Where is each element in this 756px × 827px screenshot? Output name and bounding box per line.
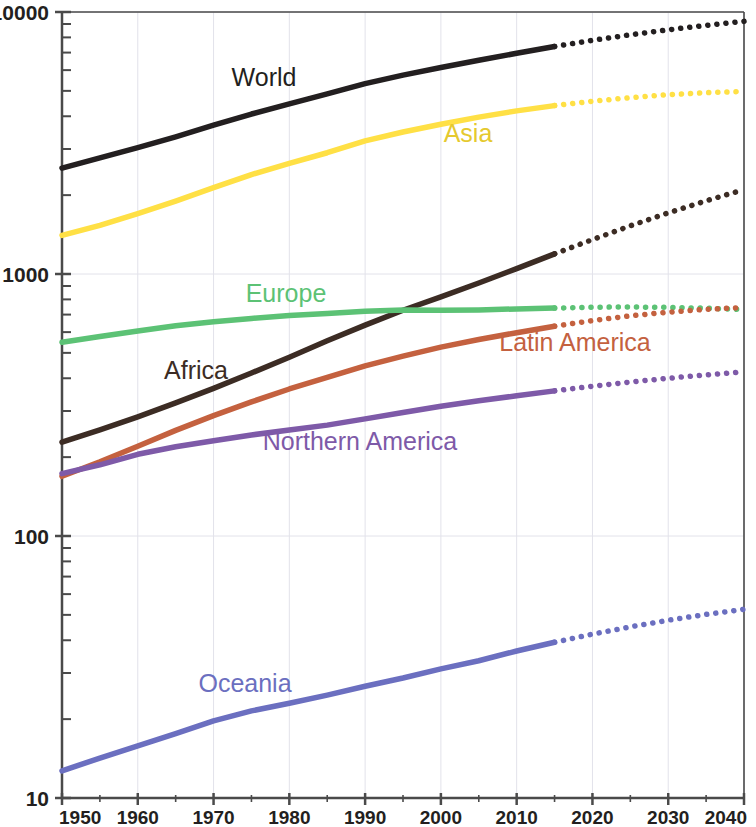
series-label-northern-america: Northern America — [263, 427, 458, 455]
x-tick-label: 1950 — [59, 807, 101, 827]
series-label-world: World — [232, 63, 297, 91]
x-tick-label: 1990 — [344, 807, 386, 827]
x-tick-label: 2010 — [496, 807, 538, 827]
x-tick-label: 1960 — [117, 807, 159, 827]
x-tick-label: 1970 — [192, 807, 234, 827]
x-tick-label: 2030 — [647, 807, 689, 827]
y-tick-label: 1000 — [2, 263, 49, 286]
series-label-asia: Asia — [444, 119, 493, 147]
series-label-oceania: Oceania — [198, 669, 291, 697]
x-tick-label: 2000 — [420, 807, 462, 827]
x-tick-label: 1980 — [268, 807, 310, 827]
series-label-africa: Africa — [164, 356, 228, 384]
y-tick-label: 10 — [26, 787, 49, 810]
chart-background — [0, 0, 756, 827]
chart-canvas: 10000100010010 1950196019701980199020002… — [0, 0, 756, 827]
series-label-latin-america: Latin America — [499, 328, 651, 356]
x-tick-label: 2020 — [571, 807, 613, 827]
series-label-europe: Europe — [246, 279, 327, 307]
y-tick-label: 100 — [14, 525, 49, 548]
x-tick-label: 2040 — [705, 807, 747, 827]
y-tick-label: 10000 — [0, 1, 49, 24]
population-line-chart: 10000100010010 1950196019701980199020002… — [0, 0, 756, 827]
